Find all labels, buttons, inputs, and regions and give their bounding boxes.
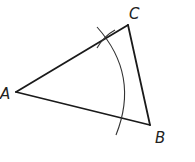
side-bc: [128, 25, 150, 125]
vertex-label-b: B: [155, 129, 165, 147]
triangle-construction-diagram: A B C: [0, 0, 195, 162]
vertex-label-c: C: [129, 5, 140, 23]
compass-arc: [97, 27, 125, 135]
vertex-label-a: A: [0, 85, 10, 103]
side-ca: [16, 25, 128, 92]
side-ab: [16, 92, 150, 125]
